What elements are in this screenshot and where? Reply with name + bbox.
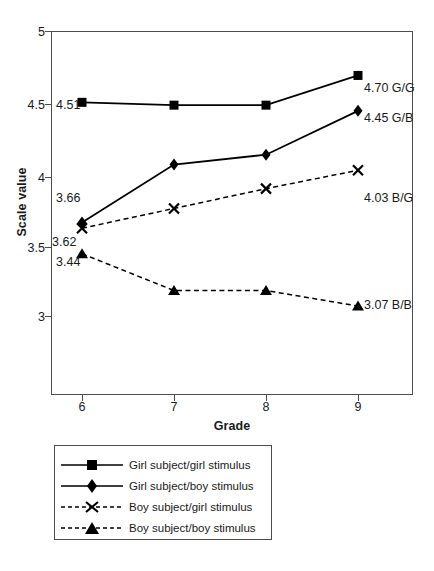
x-tick-8: 8 bbox=[246, 400, 286, 414]
legend-item-girl-boy[interactable]: Girl subject/boy stimulus bbox=[55, 475, 271, 496]
x-tick-7: 7 bbox=[154, 400, 194, 414]
plot-area bbox=[51, 31, 413, 395]
legend: Girl subject/girl stimulus Girl subject/… bbox=[54, 445, 272, 540]
label-bb-end: 3.07 B/B bbox=[364, 299, 412, 312]
label-bg-end: 4.03 B/G bbox=[364, 192, 413, 205]
y-tickmark-3.5 bbox=[45, 247, 51, 248]
legend-label-boy-boy: Boy subject/boy stimulus bbox=[129, 522, 256, 534]
legend-key-diamond bbox=[55, 476, 129, 496]
label-bb-start: 3.44 bbox=[56, 256, 80, 269]
y-tick-3: 3 bbox=[5, 311, 45, 323]
legend-label-girl-boy: Girl subject/boy stimulus bbox=[129, 480, 254, 492]
x-tickmark-7 bbox=[174, 395, 175, 401]
label-gb-end: 4.45 G/B bbox=[364, 112, 413, 125]
label-gg-start: 4.51 bbox=[56, 99, 80, 112]
legend-key-cross bbox=[55, 497, 129, 517]
y-tickmark-4.5 bbox=[45, 104, 51, 105]
legend-item-boy-boy[interactable]: Boy subject/boy stimulus bbox=[55, 517, 271, 538]
y-tick-3.5: 3.5 bbox=[5, 242, 45, 254]
legend-item-girl-girl[interactable]: Girl subject/girl stimulus bbox=[55, 454, 271, 475]
y-tick-4: 4 bbox=[5, 172, 45, 184]
x-axis-title: Grade bbox=[51, 419, 413, 433]
legend-item-boy-girl[interactable]: Boy subject/girl stimulus bbox=[55, 496, 271, 517]
y-tickmark-4 bbox=[45, 177, 51, 178]
y-tickmark-3 bbox=[45, 316, 51, 317]
legend-label-boy-girl: Boy subject/girl stimulus bbox=[129, 501, 252, 513]
x-tickmark-9 bbox=[358, 395, 359, 401]
y-tick-5: 5 bbox=[5, 26, 45, 38]
label-gb-start: 3.66 bbox=[56, 192, 80, 205]
x-tickmark-6 bbox=[82, 395, 83, 401]
legend-label-girl-girl: Girl subject/girl stimulus bbox=[129, 459, 250, 471]
legend-key-triangle bbox=[55, 518, 129, 538]
label-bg-start: 3.62 bbox=[52, 236, 76, 249]
x-tickmark-8 bbox=[266, 395, 267, 401]
y-axis-title: Scale value bbox=[15, 152, 29, 252]
x-tick-9: 9 bbox=[338, 400, 378, 414]
legend-key-square bbox=[55, 455, 129, 475]
label-gg-end: 4.70 G/G bbox=[364, 82, 415, 95]
y-tickmark-5 bbox=[45, 31, 51, 32]
x-tick-6: 6 bbox=[62, 400, 102, 414]
y-tick-4.5: 4.5 bbox=[5, 99, 45, 111]
line-chart-figure: Scale value 5 4.5 4 3.5 3 6 7 8 9 Grade … bbox=[0, 0, 434, 571]
